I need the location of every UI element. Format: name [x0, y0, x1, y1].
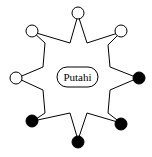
center-label: Putahi	[63, 71, 91, 83]
node-left	[10, 72, 22, 84]
node-bottom-left	[26, 115, 38, 127]
node-top-left	[26, 25, 38, 37]
star-diagram: Putahi	[0, 0, 152, 157]
node-right	[133, 72, 145, 84]
node-bottom-right	[115, 118, 127, 130]
node-top-right	[115, 25, 127, 37]
node-bottom	[72, 136, 84, 148]
node-top	[72, 7, 84, 19]
